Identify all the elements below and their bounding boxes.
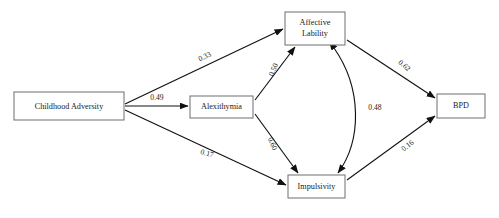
path-diagram-container: 0.33 0.49 0.17 0.50 0.60 0.62 0.16 0.48 …: [0, 0, 499, 218]
edge-childhood-adversity-to-affective-lability: [125, 29, 283, 104]
coefficient-label-0-33: 0.33: [197, 49, 213, 63]
node-impulsivity[interactable]: Impulsivity: [288, 175, 345, 198]
nodes-layer: Childhood Adversity Alexithymia Affectiv…: [14, 12, 485, 198]
coefficient-label-0-50: 0.50: [267, 62, 280, 78]
node-label-impulsivity: Impulsivity: [298, 182, 337, 191]
coefficient-label-0-48: 0.48: [368, 103, 381, 112]
edge-affective-lability-impulsivity-correlation: [334, 48, 356, 173]
node-alexithymia[interactable]: Alexithymia: [190, 96, 253, 118]
coefficient-label-0-17: 0.17: [200, 147, 215, 159]
node-label-bpd: BPD: [453, 101, 469, 110]
edges-layer: [125, 29, 435, 185]
node-affective-lability[interactable]: Affective Lability: [285, 12, 345, 45]
coefficient-label-0-49: 0.49: [150, 93, 163, 102]
node-bpd[interactable]: BPD: [437, 94, 485, 118]
path-diagram-canvas: 0.33 0.49 0.17 0.50 0.60 0.62 0.16 0.48 …: [0, 0, 499, 218]
coefficient-label-0-62: 0.62: [396, 58, 412, 73]
node-label-childhood-adversity: Childhood Adversity: [35, 102, 104, 111]
edge-affective-lability-to-bpd: [347, 40, 435, 98]
coefficient-label-0-60: 0.60: [266, 136, 280, 152]
node-label-affective-lability-line1: Affective: [300, 18, 331, 27]
node-label-affective-lability-line2: Lability: [302, 29, 329, 38]
node-childhood-adversity[interactable]: Childhood Adversity: [14, 92, 124, 120]
edge-impulsivity-to-bpd: [347, 116, 435, 180]
node-label-alexithymia: Alexithymia: [201, 102, 242, 111]
